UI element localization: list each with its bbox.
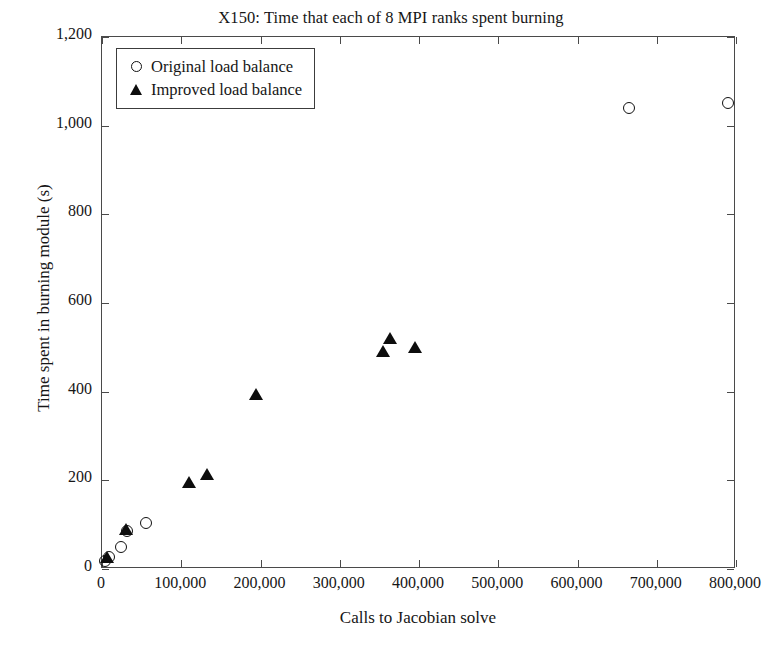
page-title: X150: Time that each of 8 MPI ranks spen…: [0, 8, 782, 28]
x-axis-tick: [657, 560, 658, 567]
data-point-improved: [383, 332, 397, 344]
x-axis-tick: [498, 560, 499, 567]
x-axis-title: Calls to Jacobian solve: [101, 608, 735, 628]
x-axis-tick: [578, 560, 579, 567]
y-axis-tick: [727, 303, 734, 304]
open-circle-icon: [126, 61, 146, 72]
y-axis-tick: [102, 480, 109, 481]
x-axis-tick-label: 800,000: [709, 574, 761, 592]
y-axis-tick: [102, 303, 109, 304]
legend-label: Original load balance: [151, 57, 293, 77]
x-axis-tick: [657, 37, 658, 44]
x-axis-tick-label: 0: [97, 574, 105, 592]
data-point-original: [115, 541, 127, 553]
x-axis-tick-label: 400,000: [392, 574, 444, 592]
x-axis-tick: [181, 37, 182, 44]
y-axis-tick: [727, 569, 734, 570]
y-axis-tick: [102, 392, 109, 393]
y-axis-tick: [102, 37, 109, 38]
y-axis-tick: [727, 126, 734, 127]
scatter-plot-figure: X150: Time that each of 8 MPI ranks spen…: [0, 0, 782, 651]
x-axis-tick: [736, 560, 737, 567]
y-axis-tick: [102, 214, 109, 215]
data-point-improved: [182, 476, 196, 488]
y-axis-tick: [727, 214, 734, 215]
x-axis-tick: [340, 560, 341, 567]
data-point-original: [722, 97, 734, 109]
x-axis-tick: [102, 37, 103, 44]
x-axis-tick: [736, 37, 737, 44]
legend-label: Improved load balance: [151, 80, 302, 100]
y-axis-tick: [727, 37, 734, 38]
x-axis-tick: [261, 560, 262, 567]
data-point-improved: [376, 345, 390, 357]
x-axis-tick-label: 600,000: [551, 574, 603, 592]
filled-triangle-icon: [126, 84, 146, 95]
data-point-original: [140, 517, 152, 529]
x-axis-tick-label: 300,000: [313, 574, 365, 592]
x-axis-tick-label: 700,000: [630, 574, 682, 592]
x-axis-tick-label: 200,000: [234, 574, 286, 592]
x-axis-tick: [578, 37, 579, 44]
y-axis-tick: [102, 569, 109, 570]
x-axis-tick: [340, 37, 341, 44]
data-point-improved: [100, 551, 114, 563]
legend-item-improved[interactable]: Improved load balance: [126, 78, 302, 101]
legend: Original load balanceImproved load balan…: [116, 48, 315, 109]
x-axis-tick: [419, 560, 420, 567]
x-axis-tick-label: 100,000: [154, 574, 206, 592]
x-axis-tick-label: 500,000: [471, 574, 523, 592]
x-axis-tick: [419, 37, 420, 44]
y-axis-tick: [727, 392, 734, 393]
x-axis-tick: [181, 560, 182, 567]
plot-area: [101, 36, 735, 568]
legend-item-original[interactable]: Original load balance: [126, 55, 302, 78]
data-point-improved: [200, 468, 214, 480]
data-point-improved: [249, 388, 263, 400]
data-point-improved: [408, 341, 422, 353]
plot-inner: [102, 37, 734, 567]
y-axis-tick: [102, 126, 109, 127]
data-point-original: [623, 102, 635, 114]
x-axis-tick: [261, 37, 262, 44]
y-axis-title: Time spent in burning module (s): [34, 32, 54, 564]
data-point-improved: [119, 523, 133, 535]
y-axis-tick: [727, 480, 734, 481]
x-axis-tick: [498, 37, 499, 44]
